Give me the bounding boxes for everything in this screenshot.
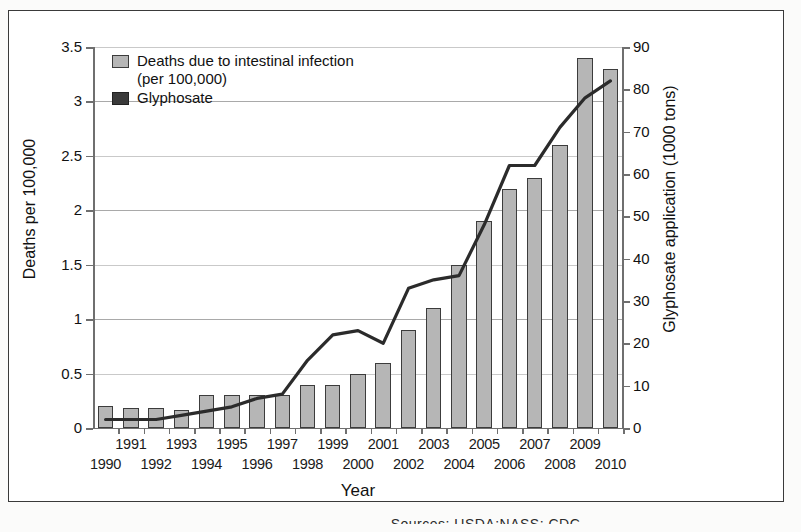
y-tick-right [623,259,630,261]
y-tick-label-left: 0.5 [40,365,82,382]
x-tick-label: 1996 [232,456,282,472]
x-tick-label: 2000 [333,456,383,472]
y-tick-left [86,265,93,267]
y-tick-left [86,374,93,376]
x-tick-label: 2005 [459,436,509,452]
x-tick-label: 2009 [560,436,610,452]
glyphosate-line [106,81,611,420]
x-tick-label: 1992 [131,456,181,472]
y-tick-label-left: 2 [40,201,82,218]
legend-label-glyphosate: Glyphosate [137,89,362,107]
x-tick-label: 1997 [257,436,307,452]
y-tick-label-left: 0 [40,419,82,436]
y-tick-left [86,156,93,158]
y-axis-title-left: Deaths per 100,000 [21,9,39,409]
x-tick-label: 2008 [535,456,585,472]
x-tick-label: 1993 [156,436,206,452]
y-tick-label-left: 3.5 [40,38,82,55]
y-tick-left [86,101,93,103]
x-tick-label: 1991 [106,436,156,452]
x-tick-label: 1995 [207,436,257,452]
y-tick-label-right: 0 [633,419,669,436]
x-tick-label: 2010 [585,456,635,472]
x-tick-label: 1998 [283,456,333,472]
y-tick-label-left: 1.5 [40,256,82,273]
x-tick-label: 1990 [81,456,131,472]
x-tick-label: 1994 [182,456,232,472]
y-tick-label-left: 2.5 [40,147,82,164]
x-tick-label: 2004 [434,456,484,472]
legend-swatch-bar-icon [112,55,129,68]
y-tick-left [86,47,93,49]
legend-label-deaths: Deaths due to intestinal infection (per … [137,52,362,88]
x-tick-label: 2006 [484,456,534,472]
y-tick-right [623,301,630,303]
x-tick-label: 2007 [510,436,560,452]
y-tick-label-left: 1 [40,310,82,327]
legend-item-glyphosate: Glyphosate [112,89,362,109]
y-tick-right [623,132,630,134]
y-tick-right [623,216,630,218]
x-tick-label: 1999 [308,436,358,452]
y-tick-left [86,319,93,321]
legend: Deaths due to intestinal infection (per … [112,52,362,110]
legend-swatch-line-icon [112,92,129,105]
x-tick-label: 2002 [384,456,434,472]
y-axis-title-right: Glyphosate application (1000 tons) [661,9,679,409]
y-tick-left [86,428,93,430]
chart-canvas: 00.511.522.533.5 0102030405060708090 199… [0,0,801,532]
y-tick-left [86,210,93,212]
y-tick-right [623,343,630,345]
y-tick-right [623,386,630,388]
x-tick-label: 2003 [409,436,459,452]
y-tick-right [623,174,630,176]
figure-root: 00.511.522.533.5 0102030405060708090 199… [0,0,801,532]
x-axis-title: Year [93,481,623,501]
legend-item-deaths: Deaths due to intestinal infection (per … [112,52,362,88]
y-tick-right [623,89,630,91]
y-tick-right [623,47,630,49]
y-tick-label-left: 3 [40,92,82,109]
x-tick-label: 2001 [358,436,408,452]
